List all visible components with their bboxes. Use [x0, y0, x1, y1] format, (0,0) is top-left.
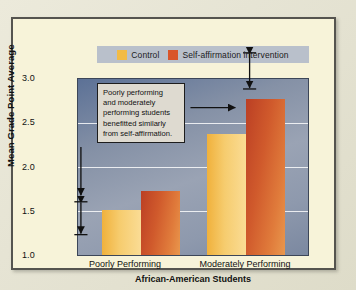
legend-label-self-affirmation: Self-affirmation intervention	[182, 50, 288, 60]
chart-figure: Control Self-affirmation intervention Me…	[0, 0, 356, 290]
bar-poorly-self-affirmation	[141, 191, 180, 255]
legend-item-control: Control	[117, 50, 159, 60]
x-tick-moderately-performing: Moderately Performing	[199, 259, 290, 269]
annotation-line-5: from self-affirmation.	[103, 129, 180, 139]
y-tick-1-5: 1.5	[9, 206, 35, 216]
chart-legend: Control Self-affirmation intervention	[97, 46, 309, 63]
y-tick-3: 3.0	[9, 73, 35, 83]
y-tick-1: 1.0	[9, 250, 35, 260]
legend-item-self-affirmation: Self-affirmation intervention	[168, 50, 288, 60]
y-axis-title: Mean Grade Point Average	[5, 44, 16, 167]
x-axis-title: African-American Students	[135, 274, 251, 284]
y-tick-2: 2.0	[9, 162, 35, 172]
annotation-callout: Poorly performing and moderately perform…	[97, 83, 185, 143]
annotation-line-1: Poorly performing	[103, 88, 180, 98]
bar-moderately-self-affirmation	[246, 99, 285, 255]
bar-moderately-control	[207, 134, 246, 255]
annotation-line-4: benefitted similarly	[103, 119, 180, 129]
y-tick-2-5: 2.5	[9, 117, 35, 127]
annotation-line-3: performing students	[103, 108, 180, 118]
chart-card: Control Self-affirmation intervention Me…	[11, 17, 336, 270]
x-tick-poorly-performing: Poorly Performing	[89, 259, 161, 269]
annotation-line-2: and moderately	[103, 98, 180, 108]
bar-poorly-control	[102, 210, 141, 255]
control-swatch-icon	[117, 50, 127, 60]
self-affirmation-swatch-icon	[168, 50, 178, 60]
legend-label-control: Control	[131, 50, 159, 60]
